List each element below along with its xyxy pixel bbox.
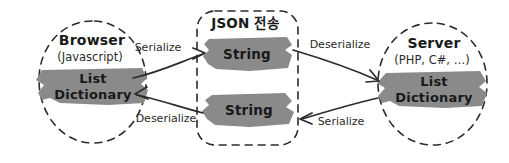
json-title: JSON 전송 [210, 15, 279, 31]
edge-browser-to-json-arrowhead [193, 48, 205, 59]
edge-json-to-server-label: Deserialize [310, 38, 371, 51]
json-marker-bottom-label: String [225, 102, 273, 118]
server-marker-line-1: List [420, 74, 448, 89]
edge-json-to-browser-label: Deserialize [136, 112, 197, 125]
server-subtitle: (PHP, C#, …) [394, 53, 469, 67]
diagram-canvas: Browser (Javascript) List Dictionary JSO… [0, 0, 509, 163]
edge-json-to-server-line [293, 50, 377, 80]
server-title: Server [407, 35, 460, 51]
edge-browser-to-json-label: Serialize [135, 41, 182, 54]
json-marker-top-label: String [223, 46, 271, 62]
node-browser: Browser (Javascript) List Dictionary [36, 21, 148, 143]
node-server: Server (PHP, C#, …) List Dictionary [377, 23, 487, 145]
edge-json-to-server: Deserialize [293, 38, 379, 82]
edge-server-to-json-label: Serialize [318, 115, 365, 128]
serialization-diagram: Browser (Javascript) List Dictionary JSO… [0, 0, 509, 163]
browser-subtitle: (Javascript) [57, 50, 122, 64]
browser-marker-line-2: Dictionary [54, 87, 132, 102]
browser-marker-line-1: List [79, 71, 107, 86]
browser-title: Browser [59, 32, 125, 48]
node-json: JSON 전송 String String [197, 11, 298, 145]
server-marker-line-2: Dictionary [395, 90, 473, 105]
edge-server-to-json: Serialize [300, 98, 378, 128]
